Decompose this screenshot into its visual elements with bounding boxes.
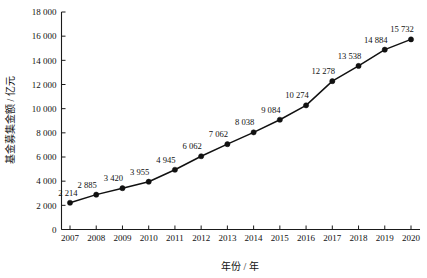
- y-axis-tick-label: 4 000: [36, 176, 57, 186]
- data-point-label: 2 885: [78, 180, 97, 190]
- data-point-marker: [225, 142, 230, 147]
- y-axis-tick-label: 18 000: [32, 7, 57, 17]
- y-axis-tick-label: 2 000: [36, 201, 57, 211]
- data-point-label: 14 884: [364, 35, 388, 45]
- x-axis-tick-label: 2008: [87, 233, 106, 243]
- x-axis-tick-label: 2016: [297, 233, 316, 243]
- data-point-marker: [146, 179, 151, 184]
- data-point-label: 9 084: [261, 105, 281, 115]
- y-axis-tick-label: 8 000: [36, 128, 57, 138]
- x-axis-tick-label: 2019: [376, 233, 395, 243]
- y-axis-title: 基金募集金额 / 亿元: [4, 76, 16, 164]
- x-axis-tick-label: 2014: [245, 233, 264, 243]
- data-point-label: 10 274: [285, 90, 309, 100]
- data-point-marker: [251, 130, 256, 135]
- data-point-marker: [94, 192, 99, 197]
- x-axis-tick-label: 2015: [271, 233, 290, 243]
- data-point-marker: [356, 63, 361, 68]
- data-point-label: 7 062: [209, 129, 228, 139]
- y-axis-tick-label: 14 000: [32, 56, 57, 66]
- x-axis-tick-label: 2011: [166, 233, 184, 243]
- data-point-label: 8 038: [235, 117, 254, 127]
- data-point-marker: [408, 37, 413, 42]
- x-axis-tick-label: 2007: [61, 233, 80, 243]
- data-point-marker: [277, 117, 282, 122]
- data-point-marker: [172, 167, 177, 172]
- x-axis-tick-label: 2012: [192, 233, 210, 243]
- y-axis-tick-label: 12 000: [32, 80, 57, 90]
- data-point-label: 15 732: [390, 24, 414, 34]
- x-axis-tick-label: 2010: [140, 233, 159, 243]
- data-point-marker: [67, 200, 72, 205]
- y-axis-tick-label: 16 000: [32, 31, 57, 41]
- x-axis-tick-label: 2009: [113, 233, 132, 243]
- data-point-marker: [382, 47, 387, 52]
- x-axis-title: 年份 / 年: [221, 260, 259, 272]
- data-point-marker: [330, 79, 335, 84]
- fund-raising-line-chart: 02 0004 0006 0008 00010 00012 00014 0001…: [0, 0, 427, 278]
- chart-canvas: 02 0004 0006 0008 00010 00012 00014 0001…: [0, 0, 427, 278]
- data-point-label: 4 945: [156, 155, 175, 165]
- y-axis-tick-label: 0: [52, 225, 57, 235]
- data-point-label: 6 062: [182, 141, 201, 151]
- x-axis-tick-label: 2020: [402, 233, 421, 243]
- data-point-marker: [303, 103, 308, 108]
- y-axis-tick-label: 10 000: [32, 104, 57, 114]
- data-point-label: 3 955: [130, 167, 149, 177]
- x-axis-tick-label: 2018: [350, 233, 369, 243]
- data-point-label: 2 214: [58, 188, 78, 198]
- data-point-marker: [199, 154, 204, 159]
- data-point-marker: [120, 186, 125, 191]
- x-axis-tick-label: 2013: [218, 233, 237, 243]
- data-point-label: 13 538: [338, 51, 362, 61]
- data-point-label: 3 420: [104, 173, 123, 183]
- x-axis-tick-label: 2017: [323, 233, 342, 243]
- data-point-label: 12 278: [311, 66, 335, 76]
- y-axis-tick-label: 6 000: [36, 152, 57, 162]
